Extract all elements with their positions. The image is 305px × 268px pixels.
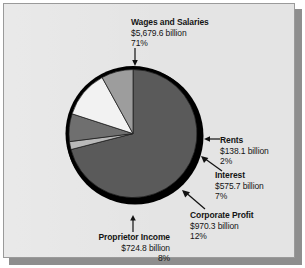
- callout-rents-percent: 2%: [220, 156, 269, 167]
- callout-proprietor-percent: 8%: [66, 253, 170, 264]
- callout-proprietor-amount: $724.8 billion: [66, 243, 170, 254]
- callout-interest-percent: 7%: [215, 191, 264, 202]
- callout-interest-title: Interest: [215, 170, 264, 181]
- callout-corporate-amount: $970.3 billion: [190, 221, 254, 232]
- pie-svg: [64, 65, 206, 207]
- arrow-down-icon: [130, 48, 140, 66]
- callout-wages-and-salaries: Wages and Salaries $5,679.6 billion 71%: [131, 17, 209, 49]
- arrow-left-icon: [204, 134, 220, 144]
- pie-chart: [64, 65, 206, 207]
- arrow-up-icon: [128, 215, 138, 232]
- callout-wages-amount: $5,679.6 billion: [131, 28, 209, 39]
- callout-interest-amount: $575.7 billion: [215, 181, 264, 192]
- callout-rents-amount: $138.1 billion: [220, 146, 269, 157]
- chart-screenshot: Wages and Salaries $5,679.6 billion 71% …: [0, 0, 305, 268]
- callout-interest: Interest $575.7 billion 7%: [215, 170, 264, 202]
- pie-slice-group: [69, 70, 197, 198]
- callout-proprietor-income: Proprietor Income $724.8 billion 8%: [66, 232, 170, 264]
- callout-wages-percent: 71%: [131, 38, 209, 49]
- callout-corporate-title: Corporate Profit: [190, 210, 254, 221]
- callout-corporate-profit: Corporate Profit $970.3 billion 12%: [190, 210, 254, 242]
- chart-panel: Wages and Salaries $5,679.6 billion 71% …: [3, 3, 295, 258]
- callout-corporate-percent: 12%: [190, 231, 254, 242]
- callout-proprietor-title: Proprietor Income: [66, 232, 170, 243]
- callout-rents-title: Rents: [220, 135, 269, 146]
- callout-rents: Rents $138.1 billion 2%: [220, 135, 269, 167]
- callout-wages-title: Wages and Salaries: [131, 17, 209, 28]
- arrow-up-left-icon: [182, 190, 206, 210]
